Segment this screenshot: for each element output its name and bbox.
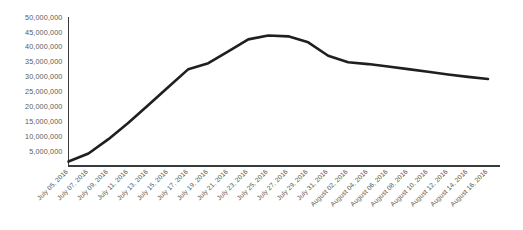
y-tick-label: 25,000,000 [25,87,62,96]
y-tick-label: 20,000,000 [25,102,62,111]
y-tick-label: 10,000,000 [25,132,62,141]
y-tick-label: 50,000,000 [25,13,62,22]
y-tick-label: 30,000,000 [25,72,62,81]
y-tick-label: 45,000,000 [25,28,62,37]
y-tick-label: 15,000,000 [25,117,62,126]
y-tick-label: 40,000,000 [25,42,62,51]
chart-axes [69,17,501,166]
data-series-line [69,35,489,161]
y-tick-label: 35,000,000 [25,57,62,66]
y-axis-tick-labels: 5,000,00010,000,00015,000,00020,000,0002… [25,13,62,156]
x-axis-tick-labels: July 05, 2016July 07, 2016July 09, 2016J… [36,168,490,209]
y-tick-label: 5,000,000 [29,147,62,156]
x-tick-label: August 16, 2016 [449,168,490,209]
chart-canvas: 5,000,00010,000,00015,000,00020,000,0002… [0,0,523,230]
line-chart: 5,000,00010,000,00015,000,00020,000,0002… [0,0,523,230]
